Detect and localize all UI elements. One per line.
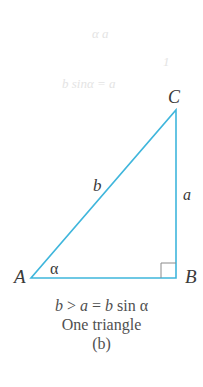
right-triangle bbox=[31, 110, 176, 278]
side-label-b: b bbox=[93, 176, 102, 196]
angle-label-alpha: α bbox=[50, 260, 58, 278]
triangle-diagram-panel-b: α a 1 b sinα = a C A B b a α b > a = b s… bbox=[0, 0, 203, 387]
caption-a: a bbox=[80, 297, 88, 314]
caption-panel-label: (b) bbox=[0, 334, 203, 353]
caption-sin: sin bbox=[113, 297, 140, 314]
caption-alpha: α bbox=[140, 297, 148, 314]
caption-result: One triangle bbox=[0, 315, 203, 334]
side-label-a: a bbox=[183, 186, 191, 204]
caption-eq: = bbox=[88, 297, 105, 314]
caption-b2: b bbox=[105, 297, 113, 314]
caption-condition: b > a = b sin α bbox=[0, 296, 203, 315]
vertex-label-c: C bbox=[168, 87, 180, 108]
vertex-label-a: A bbox=[14, 266, 26, 288]
caption-b: b bbox=[55, 297, 63, 314]
right-angle-marker bbox=[161, 263, 176, 278]
caption-gt: > bbox=[63, 297, 80, 314]
vertex-label-b: B bbox=[185, 266, 197, 288]
